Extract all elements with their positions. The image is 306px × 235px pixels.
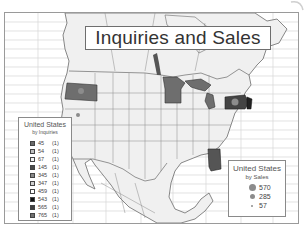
color-swatch xyxy=(30,141,35,146)
legend-count: (1) xyxy=(52,196,59,202)
sales-dot-oregon xyxy=(78,88,84,94)
legend-value: 67 xyxy=(38,156,52,162)
legend-item: 459(1) xyxy=(30,187,71,195)
legend-value: 345 xyxy=(38,172,52,178)
legend-sales-subtitle: by Sales xyxy=(229,174,285,180)
map-title: Inquiries and Sales xyxy=(95,27,260,49)
color-swatch xyxy=(30,181,35,186)
legend-item: 345(1) xyxy=(30,171,71,179)
legend-value: 543 xyxy=(38,196,52,202)
page-curl-icon xyxy=(289,0,306,12)
legend-inquiries: United States by Inquiries 45(1) 54(1) 6… xyxy=(18,117,72,221)
color-swatch xyxy=(30,165,35,170)
legend-item: 765(1) xyxy=(30,211,71,219)
color-swatch xyxy=(30,173,35,178)
legend-count: (1) xyxy=(52,156,59,162)
state-alabama xyxy=(208,149,221,171)
legend-value: 459 xyxy=(38,188,52,194)
legend-count: (1) xyxy=(52,148,59,154)
legend-item: 67(1) xyxy=(30,155,71,163)
legend-count: (1) xyxy=(52,188,59,194)
legend-value: 57 xyxy=(259,202,267,209)
color-swatch xyxy=(30,149,35,154)
state-new-jersey xyxy=(247,97,252,109)
legend-item: 54(1) xyxy=(30,147,71,155)
color-swatch xyxy=(30,213,35,218)
legend-inquiries-title: United States xyxy=(19,121,71,128)
legend-item: 45(1) xyxy=(30,139,71,147)
sales-dot-pennsylvania xyxy=(232,99,239,106)
legend-item: 565(1) xyxy=(30,203,71,211)
sales-dot-icon xyxy=(249,184,256,191)
legend-count: (1) xyxy=(52,164,59,170)
legend-count: (1) xyxy=(52,172,59,178)
color-swatch xyxy=(30,197,35,202)
legend-count: (1) xyxy=(52,180,59,186)
legend-item: 570 xyxy=(247,183,285,192)
map-title-box: Inquiries and Sales xyxy=(85,26,271,50)
legend-count: (1) xyxy=(52,212,59,218)
legend-value: 285 xyxy=(259,193,271,200)
legend-value: 765 xyxy=(38,212,52,218)
legend-item: 285 xyxy=(247,192,285,201)
legend-item: 347(1) xyxy=(30,179,71,187)
color-swatch xyxy=(30,157,35,162)
legend-value: 570 xyxy=(259,184,271,191)
legend-sales: United States by Sales 570 285 57 xyxy=(228,160,286,217)
legend-value: 45 xyxy=(38,140,52,146)
legend-item: 57 xyxy=(247,201,285,210)
color-swatch xyxy=(30,189,35,194)
legend-count: (1) xyxy=(52,204,59,210)
legend-sales-title: United States xyxy=(229,164,285,173)
legend-value: 145 xyxy=(38,164,52,170)
legend-item: 543(1) xyxy=(30,195,71,203)
sales-dot-icon xyxy=(251,205,253,207)
legend-item: 145(1) xyxy=(30,163,71,171)
color-swatch xyxy=(30,205,35,210)
legend-count: (1) xyxy=(52,140,59,146)
legend-value: 54 xyxy=(38,148,52,154)
legend-value: 565 xyxy=(38,204,52,210)
sales-dot-icon xyxy=(250,194,255,199)
legend-inquiries-subtitle: by Inquiries xyxy=(19,129,71,135)
sales-dot-nevada xyxy=(76,113,80,117)
legend-value: 347 xyxy=(38,180,52,186)
